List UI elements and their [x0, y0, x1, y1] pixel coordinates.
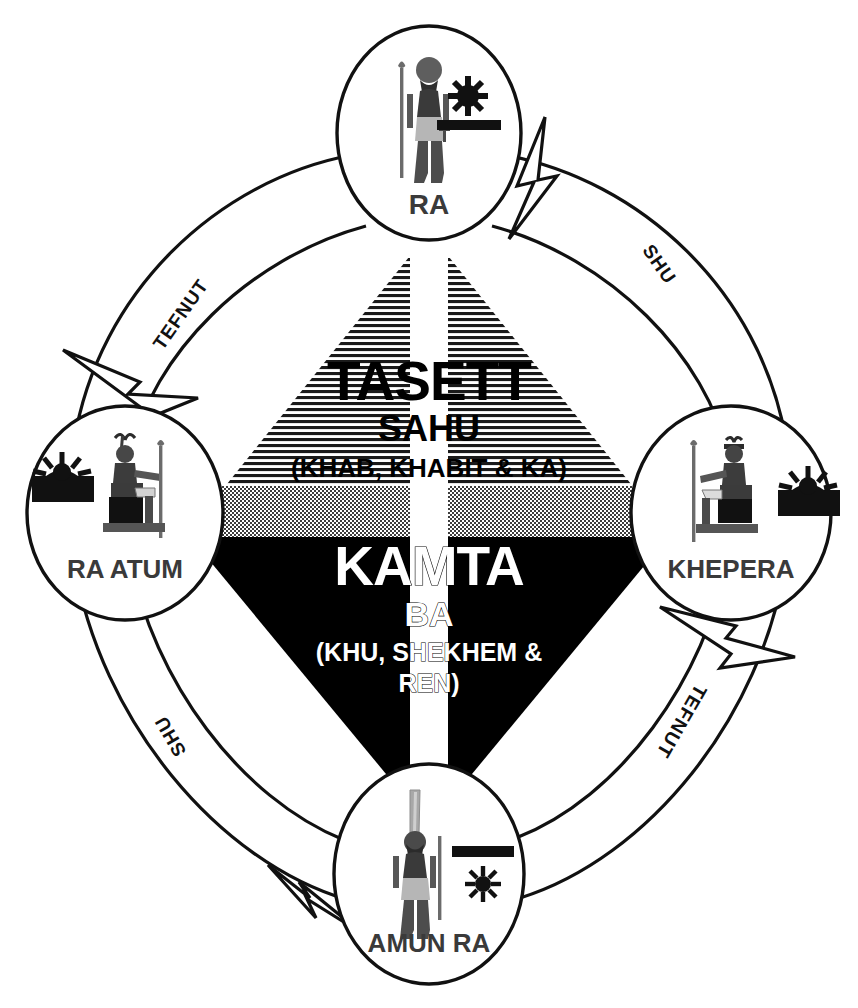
node-label-khepera: KHEPERA [667, 554, 794, 584]
diagram-canvas: RA [0, 0, 858, 1008]
kamta-detail-line-1: (KHU, SHEKHEM & [316, 638, 542, 666]
vertical-white-stripe [410, 215, 448, 835]
kamta-tasett-diagram: RA [0, 0, 858, 1008]
kamta-detail-line-2: REN) [398, 669, 459, 697]
node-label-ra: RA [409, 189, 449, 220]
tasett-detail: (KHAB, KHABIT & KA) [291, 453, 567, 483]
node-label-amun-ra: AMUN RA [368, 928, 491, 958]
arc-label-amun-to-ratum: SHU [150, 712, 190, 760]
tasett-title: TASETT [327, 350, 531, 412]
tasett-subtitle: SAHU [378, 408, 480, 449]
kamta-subtitle: BA [404, 595, 453, 633]
arc-label-ra-to-khepera: SHU [638, 241, 680, 288]
node-label-ra-atum: RA ATUM [67, 554, 183, 584]
arc-label-khepera-to-amun: TEFNUT [652, 681, 711, 762]
kamta-title: KAMTA [334, 535, 524, 597]
arc-label-ratum-to-ra: TEFNUT [149, 275, 213, 353]
